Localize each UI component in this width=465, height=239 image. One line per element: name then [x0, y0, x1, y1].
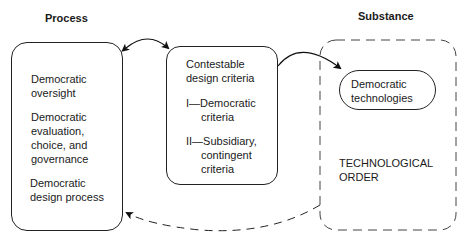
technological-order-boundary	[320, 40, 456, 230]
criteria-to-technologies-arrow	[278, 52, 340, 68]
order-to-process-dashed-arrow	[127, 205, 320, 231]
connectors-layer	[0, 0, 465, 239]
bidirectional-arrow	[126, 39, 168, 48]
